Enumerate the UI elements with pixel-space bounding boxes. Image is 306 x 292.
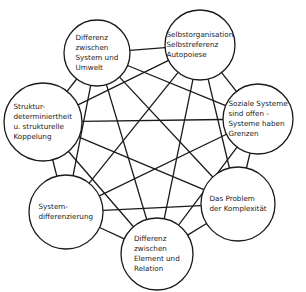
edge-n1-n5	[106, 85, 146, 220]
node-label-line: Element und	[134, 254, 180, 264]
edge-n2-n5	[164, 79, 193, 218]
edge-n2-n6	[89, 72, 178, 183]
node-label-line: Selbstorganisation	[167, 30, 234, 40]
edge-n1-n2	[130, 48, 165, 51]
node-label-line: zwischen	[76, 43, 119, 53]
node-label-n3: Soziale Systemesind offen -Systeme haben…	[229, 99, 288, 139]
edge-n3-n4	[246, 153, 250, 168]
node-label-line: System und	[76, 53, 119, 63]
edge-n4-n7	[79, 137, 204, 190]
edge-n2-n3	[222, 73, 237, 92]
edge-n1-n7	[67, 79, 77, 91]
node-label-line: Soziale Systeme	[229, 99, 288, 109]
node-label-line: sind offen -	[229, 109, 288, 119]
node-label-line: determiniertheit	[14, 112, 73, 122]
node-label-line: Differenz	[76, 33, 119, 43]
node-label-line: Differenz	[134, 234, 180, 244]
node-label-n4: Das Problemder Komplexität	[210, 194, 267, 214]
node-label-line: der Komplexität	[210, 204, 267, 214]
node-label-line: zwischen	[134, 244, 180, 254]
node-label-n2: SelbstorganisationSelbstreferenzAutopoie…	[167, 30, 234, 60]
node-label-n1: DifferenzzwischenSystem undUmwelt	[76, 33, 119, 73]
node-label-line: Selbstreferenz	[167, 40, 234, 50]
node-label-line: differenzierung	[39, 212, 94, 222]
node-label-line: Umwelt	[76, 63, 119, 73]
node-label-line: Das Problem	[210, 194, 267, 204]
node-label-line: Koppelung	[14, 132, 73, 142]
node-label-line: Relation	[134, 264, 180, 274]
edge-n3-n7	[82, 119, 223, 121]
node-label-line: System-	[39, 202, 94, 212]
edge-n4-n5	[188, 223, 207, 235]
edge-n5-n6	[100, 228, 125, 239]
node-label-line: Struktur-	[14, 102, 73, 112]
node-label-line: u. strukturelle	[14, 122, 73, 132]
node-label-n6: System-differenzierung	[39, 202, 94, 222]
node-label-line: Autopoiese	[167, 50, 234, 60]
node-label-n7: Struktur-determiniertheitu. strukturelle…	[14, 102, 73, 142]
node-label-n5: DifferenzzwischenElement undRelation	[134, 234, 180, 274]
edge-n6-n7	[53, 160, 57, 176]
node-label-line: Systeme haben	[229, 119, 288, 129]
node-label-line: Grenzen	[229, 129, 288, 139]
